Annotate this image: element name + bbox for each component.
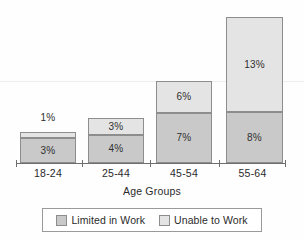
bar-segment-unable-25-44: 3% (88, 118, 144, 135)
bar-segment-limited-18-24: 3% (20, 138, 76, 163)
legend-item-unable-to-work: Unable to Work (159, 215, 248, 226)
x-axis-tick-end (285, 160, 286, 167)
bar-group-25-44: 3% 4% (88, 118, 144, 163)
x-axis-tick-start (16, 160, 17, 167)
legend-label-unable: Unable to Work (174, 215, 248, 226)
stacked-bar-chart: 1% 3% 3% 4% 6% 7% 13 (0, 0, 304, 240)
x-axis-label-55-64: 55-64 (224, 168, 281, 179)
bar-segment-limited-55-64: 8% (226, 112, 283, 163)
bar-label-unable-25-44: 3% (109, 122, 124, 132)
legend-swatch-icon-limited (56, 215, 67, 226)
bar-label-unable-18-24: 1% (20, 113, 76, 123)
plot-area: 1% 3% 3% 4% 6% 7% 13 (0, 0, 304, 175)
x-axis-label-18-24: 18-24 (20, 168, 76, 179)
bar-label-limited-45-54: 7% (177, 133, 192, 143)
bar-segment-limited-45-54: 7% (156, 113, 212, 163)
x-axis-label-45-54: 45-54 (156, 168, 212, 179)
legend-item-limited-in-work: Limited in Work (56, 215, 145, 226)
bar-group-45-54: 6% 7% (156, 81, 212, 163)
bar-label-unable-45-54: 6% (177, 92, 192, 102)
bar-label-limited-18-24: 3% (41, 146, 56, 156)
chart-legend: Limited in Work Unable to Work (42, 208, 262, 232)
bar-group-18-24: 1% 3% (20, 126, 76, 163)
legend-label-limited: Limited in Work (71, 215, 145, 226)
bar-group-55-64: 13% 8% (226, 17, 283, 163)
bar-label-unable-55-64: 13% (244, 60, 265, 70)
bar-label-limited-55-64: 8% (247, 133, 262, 143)
x-axis-tick-1 (82, 160, 83, 167)
bar-label-limited-25-44: 4% (109, 144, 124, 154)
bar-segment-unable-55-64: 13% (226, 17, 283, 112)
x-axis-title: Age Groups (0, 185, 304, 197)
x-axis-label-25-44: 25-44 (88, 168, 144, 179)
bar-segment-unable-45-54: 6% (156, 81, 212, 113)
x-axis-line (16, 163, 286, 164)
legend-swatch-icon-unable (159, 215, 170, 226)
x-axis-tick-3 (219, 160, 220, 167)
bar-segment-limited-25-44: 4% (88, 135, 144, 163)
x-axis-tick-2 (150, 160, 151, 167)
